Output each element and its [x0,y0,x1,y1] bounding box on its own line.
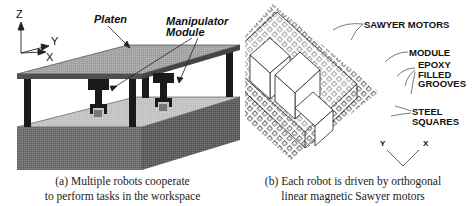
manipulator-module-2 [153,73,174,111]
platen-leg [226,52,233,97]
platen-label: Platen [94,14,127,25]
axis-label-x: X [423,140,428,148]
platen-edge [17,74,142,79]
steel-line2: SQUARES [412,117,459,127]
platen-leg [129,79,136,127]
module-label: MODULE [409,48,450,58]
caption-a-line1: (a) Multiple robots cooperate [0,174,245,189]
module-label: Module [166,27,205,38]
caption-b-line2: linear magnetic Sawyer motors [233,189,473,204]
caption-b-line1: (b) Each robot is driven by orthogonal [233,174,473,189]
steel-squares-label: STEEL SQUARES [412,107,459,126]
epoxy-grooves-label: EPOXY FILLED GROOVES [418,60,466,89]
base-front-face [17,127,142,170]
axis-label-y: Y [380,140,385,148]
axis-triad-icon [18,22,49,55]
axis-label-x: X [46,52,53,63]
caption-a: (a) Multiple robots cooperate to perform… [0,174,245,204]
axis-label-y: Y [51,36,58,47]
panel-a-platen-view: Z Y X Platen Manipulator Module (a) Mult… [0,0,245,206]
xy-axes-icon [387,150,419,166]
epoxy-line3: GROOVES [418,79,466,89]
caption-b: (b) Each robot is driven by orthogonal l… [233,174,473,204]
caption-a-line2: to perform tasks in the workspace [0,189,245,204]
sawyer-motors-label: SAWYER MOTORS [364,20,449,30]
axis-label-z: Z [16,9,23,20]
panel-b-sawyer-view: SAWYER MOTORS MODULE EPOXY FILLED GROOVE… [245,0,473,206]
manipulator-module-1 [88,79,109,117]
platen-leg [24,79,31,127]
